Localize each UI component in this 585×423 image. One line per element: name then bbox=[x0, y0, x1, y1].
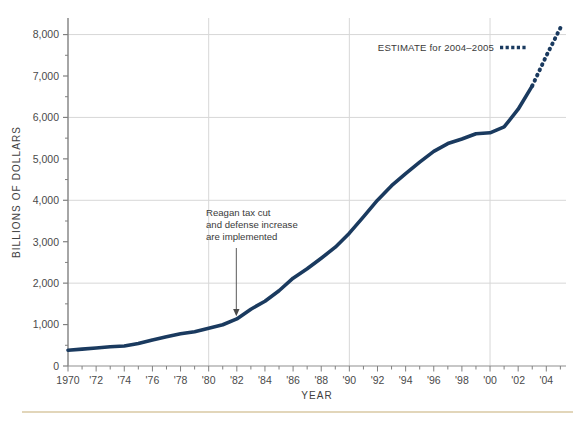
annotation-line-3: are implemented bbox=[206, 231, 277, 242]
x-tick-label-1970: 1970 bbox=[56, 374, 80, 386]
annotation-arrow-head bbox=[233, 309, 239, 316]
x-tick-label-1982: '82 bbox=[230, 374, 244, 386]
y-axis-ticks: 01,0002,0003,0004,0005,0006,0007,0008,00… bbox=[33, 28, 68, 371]
y-tick-label-5000: 5,000 bbox=[33, 153, 59, 165]
legend-label: ESTIMATE for 2004–2005 bbox=[378, 42, 494, 53]
y-tick-label-1000: 1,000 bbox=[33, 318, 59, 330]
x-tick-label-1984: '84 bbox=[258, 374, 272, 386]
y-tick-label-0: 0 bbox=[53, 360, 59, 372]
x-tick-label-1992: '92 bbox=[371, 374, 385, 386]
y-tick-label-2000: 2,000 bbox=[33, 277, 59, 289]
x-axis-title: YEAR bbox=[301, 390, 333, 401]
debt-chart: 01,0002,0003,0004,0005,0006,0007,0008,00… bbox=[0, 0, 585, 423]
x-tick-label-2004: '04 bbox=[539, 374, 553, 386]
x-tick-label-1972: '72 bbox=[89, 374, 103, 386]
x-tick-label-1978: '78 bbox=[174, 374, 188, 386]
x-tick-label-1980: '80 bbox=[202, 374, 216, 386]
x-tick-label-2000: '00 bbox=[483, 374, 497, 386]
x-axis-ticks: 1970'72'74'76'78'80'82'84'86'88'90'92'94… bbox=[56, 366, 560, 386]
annotation-arrow bbox=[233, 248, 239, 316]
vertical-gridlines bbox=[209, 18, 490, 366]
chart-legend: ESTIMATE for 2004–2005 bbox=[378, 42, 527, 53]
x-tick-label-1998: '98 bbox=[455, 374, 469, 386]
x-tick-label-2002: '02 bbox=[511, 374, 525, 386]
y-tick-label-7000: 7,000 bbox=[33, 70, 59, 82]
x-tick-label-1988: '88 bbox=[314, 374, 328, 386]
data-series-layer bbox=[68, 28, 560, 350]
x-tick-label-1974: '74 bbox=[117, 374, 131, 386]
y-axis-title: BILLIONS OF DOLLARS bbox=[11, 126, 22, 258]
y-tick-label-8000: 8,000 bbox=[33, 28, 59, 40]
chart-plot-area: 01,0002,0003,0004,0005,0006,0007,0008,00… bbox=[0, 0, 585, 423]
y-tick-label-6000: 6,000 bbox=[33, 111, 59, 123]
x-tick-label-1996: '96 bbox=[427, 374, 441, 386]
series-line-0 bbox=[68, 86, 532, 350]
y-tick-label-4000: 4,000 bbox=[33, 194, 59, 206]
series-line-1 bbox=[532, 28, 560, 86]
annotation-layer: Reagan tax cut and defense increase are … bbox=[206, 207, 298, 316]
y-tick-label-3000: 3,000 bbox=[33, 236, 59, 248]
x-tick-label-1994: '94 bbox=[399, 374, 413, 386]
x-tick-label-1990: '90 bbox=[343, 374, 357, 386]
x-tick-label-1986: '86 bbox=[286, 374, 300, 386]
x-tick-label-1976: '76 bbox=[146, 374, 160, 386]
annotation-line-2: and defense increase bbox=[206, 219, 298, 230]
horizontal-gridlines bbox=[68, 35, 566, 284]
annotation-line-1: Reagan tax cut bbox=[206, 207, 271, 218]
